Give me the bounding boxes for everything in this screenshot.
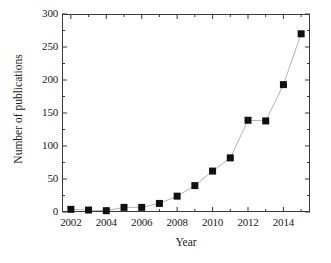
data-point	[209, 168, 216, 175]
y-tick-label: 100	[2, 140, 58, 151]
y-tick-label: 50	[2, 173, 58, 184]
data-point	[174, 193, 181, 200]
x-axis-title: Year	[62, 236, 310, 248]
publications-per-year-chart: 050100150200250300 Number of publication…	[0, 0, 331, 263]
x-tick-label: 2014	[260, 216, 306, 228]
data-point	[262, 117, 269, 124]
axis-ticks	[62, 14, 310, 212]
data-point	[298, 30, 305, 37]
data-point	[227, 154, 234, 161]
y-tick-label: 200	[2, 74, 58, 85]
y-axis-title: Number of publications	[12, 29, 24, 189]
y-tick-label: 300	[2, 8, 58, 19]
data-point	[156, 200, 163, 207]
data-point	[191, 182, 198, 189]
data-point	[67, 206, 74, 213]
plot-area	[62, 14, 310, 212]
data-point	[121, 204, 128, 211]
data-point	[280, 81, 287, 88]
y-tick-label: 250	[2, 41, 58, 52]
y-tick-label: 150	[2, 107, 58, 118]
data-point	[138, 204, 145, 211]
data-point	[103, 207, 110, 214]
data-point	[85, 207, 92, 214]
series-markers	[67, 30, 304, 214]
data-point	[245, 117, 252, 124]
x-axis-tick-labels: 2002200420062008201020122014	[0, 216, 331, 232]
